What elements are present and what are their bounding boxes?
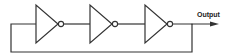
ring-oscillator-diagram: Output	[0, 0, 229, 54]
junction-dot	[191, 23, 192, 24]
inverter-3-bubble	[167, 21, 172, 26]
inverter-2-triangle	[90, 5, 112, 43]
output-arrow-icon	[210, 22, 219, 27]
inverter-3-triangle	[145, 5, 167, 43]
inverter-2	[90, 5, 118, 43]
inverter-2-bubble	[112, 21, 117, 26]
inverter-1-bubble	[58, 21, 63, 26]
inverter-1-triangle	[36, 5, 58, 43]
output-label: Output	[197, 11, 221, 19]
inverter-3	[145, 5, 173, 43]
inverter-1	[36, 5, 64, 43]
